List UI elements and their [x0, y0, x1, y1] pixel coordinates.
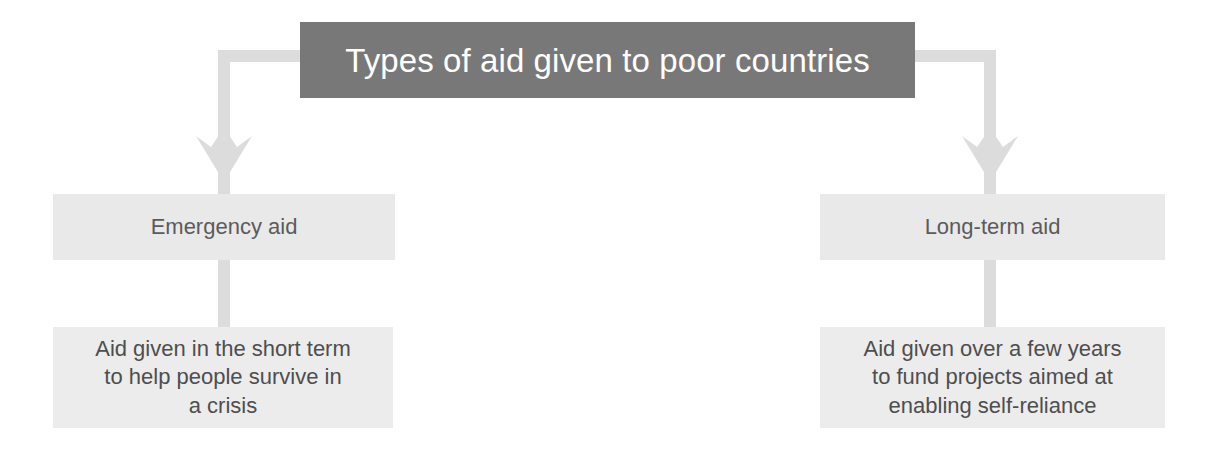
connector-horizontal-left [218, 50, 306, 62]
arrow-down-icon-right [961, 126, 1019, 182]
connector-stem-left [218, 258, 230, 329]
diagram-title-label: Types of aid given to poor countries [345, 44, 870, 77]
category-box-long-term-aid: Long-term aid [820, 194, 1165, 260]
category-label-emergency-aid: Emergency aid [151, 216, 298, 238]
arrow-down-icon-left [195, 126, 253, 182]
description-line: Aid given over a few years [863, 335, 1121, 363]
description-line: to fund projects aimed at [863, 363, 1121, 391]
description-box-emergency-aid: Aid given in the short term to help peop… [53, 327, 393, 428]
description-line: Aid given in the short term [95, 335, 351, 363]
diagram-canvas: Types of aid given to poor countries Eme… [0, 0, 1211, 456]
description-text-emergency-aid: Aid given in the short term to help peop… [85, 335, 361, 419]
category-label-long-term-aid: Long-term aid [925, 216, 1061, 238]
diagram-title-box: Types of aid given to poor countries [300, 22, 915, 98]
connector-stem-right [984, 258, 996, 329]
description-line: a crisis [95, 392, 351, 420]
description-line: to help people survive in [95, 363, 351, 391]
description-box-long-term-aid: Aid given over a few years to fund proje… [820, 327, 1165, 428]
description-line: enabling self-reliance [863, 392, 1121, 420]
category-box-emergency-aid: Emergency aid [53, 194, 395, 260]
description-text-long-term-aid: Aid given over a few years to fund proje… [853, 335, 1131, 419]
